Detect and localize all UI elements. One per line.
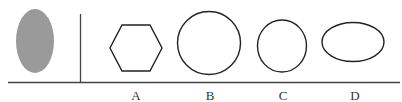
horizontal-ellipse-shape — [322, 23, 384, 62]
hexagon-shape — [110, 25, 162, 71]
option-b[interactable]: B — [178, 12, 241, 102]
option-c-label: C — [279, 88, 288, 101]
option-d[interactable]: D — [322, 23, 384, 102]
reference-gray-ellipse — [16, 9, 54, 73]
option-a-label: A — [131, 88, 141, 101]
shape-diagram: A B C D — [0, 0, 402, 101]
option-c[interactable]: C — [258, 20, 307, 101]
small-circle-shape — [258, 20, 307, 72]
option-a[interactable]: A — [110, 25, 162, 101]
option-d-label: D — [350, 88, 359, 101]
circle-shape — [178, 12, 241, 75]
option-b-label: B — [206, 88, 215, 101]
